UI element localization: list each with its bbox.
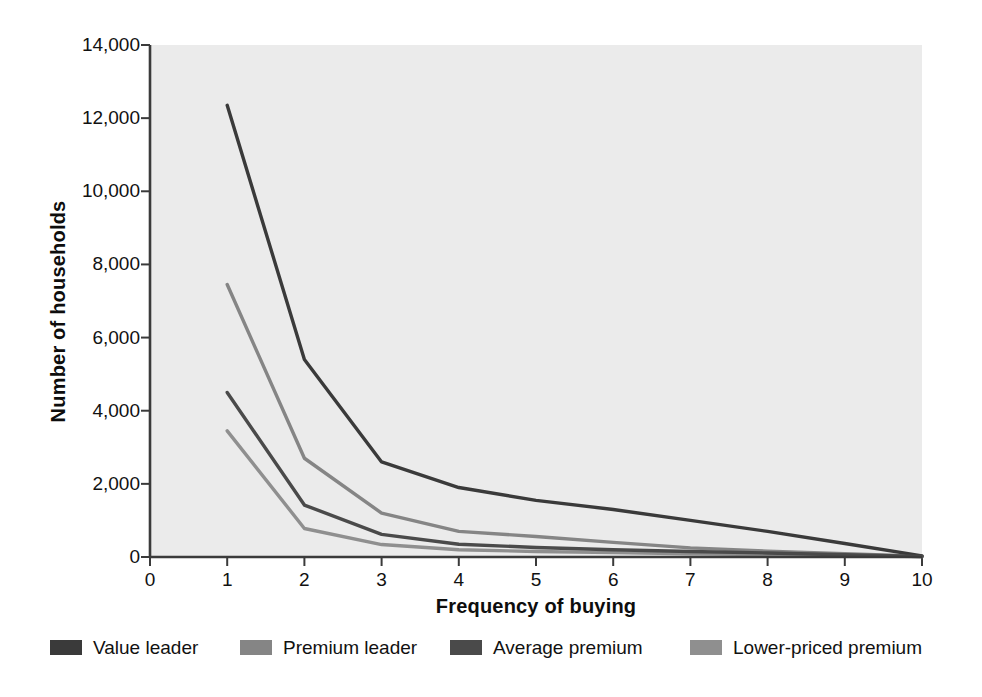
legend-item[interactable]: Lower-priced premium (690, 634, 922, 660)
x-tick-label: 10 (892, 569, 952, 591)
x-axis-tick-labels: 012345678910 (0, 0, 982, 697)
x-tick-label: 2 (274, 569, 334, 591)
x-tick-label: 1 (197, 569, 257, 591)
legend-label: Premium leader (283, 638, 417, 657)
x-axis-title: Frequency of buying (150, 595, 922, 618)
legend-swatch-icon (690, 640, 722, 655)
legend-label: Value leader (93, 638, 198, 657)
legend-item[interactable]: Premium leader (240, 634, 417, 660)
x-tick-label: 3 (352, 569, 412, 591)
x-tick-label: 6 (583, 569, 643, 591)
legend-swatch-icon (450, 640, 482, 655)
legend-item[interactable]: Value leader (50, 634, 198, 660)
legend-label: Average premium (493, 638, 643, 657)
legend-swatch-icon (50, 640, 82, 655)
chart-legend: Value leaderPremium leaderAverage premiu… (50, 634, 950, 662)
legend-swatch-icon (240, 640, 272, 655)
x-tick-label: 9 (815, 569, 875, 591)
x-tick-label: 7 (660, 569, 720, 591)
x-tick-label: 0 (120, 569, 180, 591)
chart-figure: Number of households 02,0004,0006,0008,0… (0, 0, 982, 697)
x-tick-label: 5 (506, 569, 566, 591)
x-tick-label: 8 (738, 569, 798, 591)
legend-label: Lower-priced premium (733, 638, 922, 657)
x-tick-label: 4 (429, 569, 489, 591)
legend-item[interactable]: Average premium (450, 634, 643, 660)
